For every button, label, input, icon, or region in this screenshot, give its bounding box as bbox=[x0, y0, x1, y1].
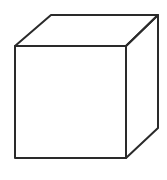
cube-front-face bbox=[15, 46, 126, 158]
cube-top-face bbox=[15, 15, 158, 46]
cube-diagram bbox=[0, 0, 167, 180]
cube-right-face bbox=[126, 15, 158, 158]
